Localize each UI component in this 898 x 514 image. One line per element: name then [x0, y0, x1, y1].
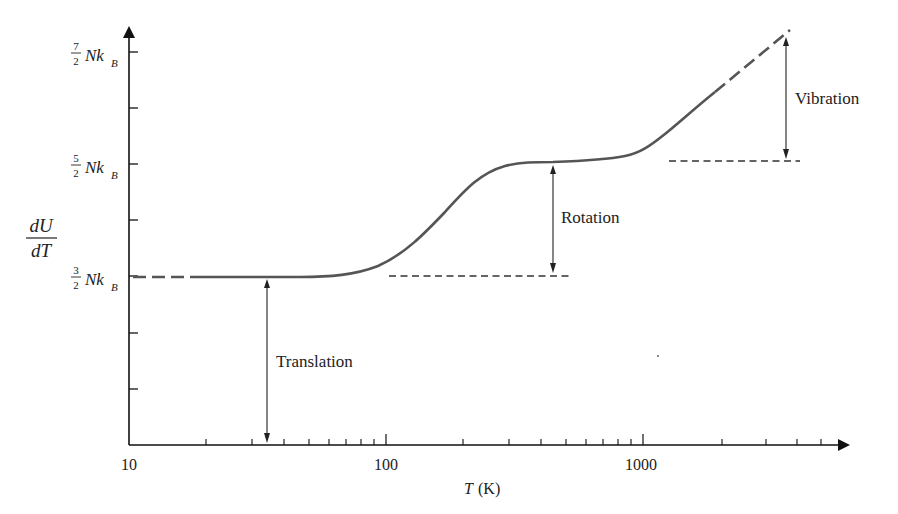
y-axis-title: dU dT [26, 215, 57, 261]
nk-text: Nk [84, 270, 104, 289]
heat-capacity-chart: 10 100 1000 T (K) dU dT 7 2 Nk B 5 2 Nk … [0, 0, 898, 514]
x-axis-title-variable: T [464, 480, 474, 497]
fraction-numerator: 5 [73, 152, 79, 164]
arrow-down-icon [264, 433, 270, 443]
nk-text: Nk [84, 158, 104, 177]
y-tick-label-3-2: 3 2 Nk B [71, 264, 118, 293]
nk-subscript: B [111, 281, 118, 293]
x-axis-title-unit: (K) [478, 480, 500, 498]
vibration-arrow [783, 37, 789, 159]
arrow-up-icon [783, 37, 789, 46]
x-tick-label-1000: 1000 [625, 456, 657, 473]
translation-label: Translation [276, 352, 353, 371]
vibration-label: Vibration [795, 89, 860, 108]
fraction-numerator: 3 [73, 264, 79, 276]
speck-dot [657, 355, 659, 357]
x-tick-label-10: 10 [121, 456, 137, 473]
arrow-up-icon [264, 279, 270, 288]
fraction-numerator: 7 [73, 40, 79, 52]
nk-text: Nk [84, 46, 104, 65]
x-axis-arrow-icon [838, 439, 850, 451]
y-axis [123, 26, 138, 445]
y-tick-label-7-2: 7 2 Nk B [71, 40, 118, 69]
y-axis-title-numerator: dU [29, 215, 54, 236]
arrow-down-icon [550, 263, 556, 273]
heat-capacity-curve [133, 30, 790, 277]
rotation-arrow [550, 165, 556, 273]
y-tick-label-5-2: 5 2 Nk B [71, 152, 118, 181]
x-axis [129, 434, 850, 451]
nk-subscript: B [111, 169, 118, 181]
fraction-denominator: 2 [73, 167, 79, 179]
x-axis-title: T (K) [464, 480, 500, 498]
arrow-up-icon [550, 165, 556, 174]
arrow-down-icon [783, 149, 789, 159]
rotation-label: Rotation [561, 208, 620, 227]
fraction-denominator: 2 [73, 55, 79, 67]
translation-arrow [264, 279, 270, 443]
nk-subscript: B [111, 57, 118, 69]
curve-solid [200, 92, 715, 277]
y-axis-arrow-icon [123, 26, 135, 38]
curve-dashed-end [715, 30, 790, 92]
fraction-denominator: 2 [73, 279, 79, 291]
y-axis-title-denominator: dT [31, 240, 53, 261]
x-tick-label-100: 100 [374, 456, 398, 473]
